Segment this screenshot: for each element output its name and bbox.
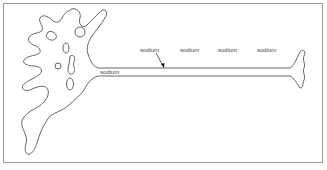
label-sodium-inside: sodium — [100, 69, 119, 75]
label-sodium-3: sodium — [218, 47, 237, 53]
label-sodium-4: sodium — [257, 47, 276, 53]
label-sodium-2: sodium — [180, 47, 199, 53]
neuron-outline — [0, 0, 327, 170]
label-sodium-1: sodium — [140, 47, 159, 53]
arrow-icon — [156, 53, 165, 68]
